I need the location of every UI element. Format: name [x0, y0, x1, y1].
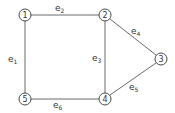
node-4: 4: [99, 93, 111, 105]
node-4-label: 4: [102, 95, 107, 104]
node-3-label: 3: [158, 55, 163, 64]
edge-label-e6: e6: [53, 100, 63, 111]
node-2-label: 2: [102, 11, 107, 20]
node-1-label: 1: [22, 11, 27, 20]
node-5-label: 5: [22, 95, 27, 104]
graph-diagram: e1 e2 e3 e4 e5 e6 1 2 3 4 5: [0, 0, 175, 113]
edge-label-e2: e2: [55, 3, 65, 14]
node-5: 5: [19, 93, 31, 105]
edge-label-e3: e3: [92, 53, 102, 64]
edge-label-e1: e1: [8, 54, 18, 65]
edge-e4: [110, 19, 156, 55]
node-2: 2: [99, 9, 111, 21]
node-3: 3: [155, 53, 167, 65]
edge-label-e5: e5: [129, 82, 139, 93]
edge-label-e4: e4: [131, 26, 141, 37]
node-1: 1: [19, 9, 31, 21]
